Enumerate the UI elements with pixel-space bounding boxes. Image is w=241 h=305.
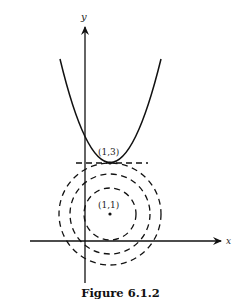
point-label-center: (1,1)	[98, 200, 119, 210]
x-axis-label: x	[226, 236, 231, 246]
point-center	[108, 212, 111, 215]
figure-diagram: x y (1,3) (1,1)	[0, 0, 241, 305]
figure-caption: Figure 6.1.2	[0, 286, 241, 300]
point-vertex	[108, 161, 111, 164]
point-label-vertex: (1,3)	[98, 147, 119, 157]
y-axis-label: y	[80, 11, 87, 22]
